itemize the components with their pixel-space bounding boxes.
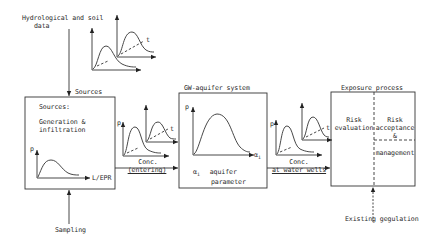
sampling-label: Sampling	[55, 226, 86, 234]
sources-plot-y-label: p	[30, 145, 34, 153]
hydro-plot-front	[92, 28, 141, 70]
hydro-plot-t-label: t	[146, 36, 150, 44]
gw-aquifer-caption: GW-aquifer system	[184, 84, 250, 92]
hydro-plot-back	[117, 15, 156, 57]
risk-acceptance-label: Risk acceptance &	[375, 116, 415, 140]
wells-plot-back	[302, 103, 332, 140]
sources-arrow-label: Sources	[75, 88, 102, 96]
gw-plot-x-label: αi	[254, 151, 261, 161]
sources-box-description: Generation & infiltration	[39, 118, 85, 134]
conc-entering-label: Conc. (entering)	[128, 158, 168, 174]
entering-plot-back	[146, 105, 178, 142]
risk-evaluation-label: Risk evaluation	[333, 116, 375, 132]
wells-plot-front	[276, 120, 322, 155]
gw-plot-y-label: p	[185, 103, 189, 111]
gw-plot	[193, 107, 254, 155]
hydrological-data-label: Hydrological and soil data	[22, 14, 103, 30]
conc-wells-label: Conc. at water wells	[271, 158, 327, 174]
sources-plot-x-label: L/EPR	[92, 174, 111, 182]
gw-aquifer-parameter-label: αi aquifer parameter	[193, 168, 246, 186]
wells-plot-p-label: p	[270, 120, 274, 128]
sources-box-title: Sources:	[39, 103, 70, 111]
entering-plot-t-label: t	[170, 125, 174, 133]
entering-plot-p-label: p	[117, 119, 121, 127]
wells-plot-t-label: t	[326, 124, 330, 132]
exposure-process-caption: Exposure process	[341, 84, 403, 92]
param-symbol: αi	[193, 168, 200, 176]
sources-plot	[37, 150, 90, 178]
existing-regulation-label: Existing gegulation	[345, 215, 419, 223]
management-label: management	[375, 149, 415, 157]
